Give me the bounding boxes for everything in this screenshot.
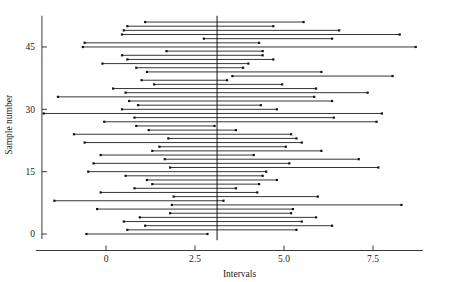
interval-endpoint-lower	[82, 46, 84, 48]
interval-endpoint-upper	[258, 42, 260, 44]
interval-endpoint-lower	[148, 129, 150, 131]
interval-endpoint-lower	[165, 50, 167, 52]
interval-endpoint-upper	[276, 108, 278, 110]
interval-endpoint-lower	[124, 175, 126, 177]
interval-endpoint-lower	[126, 229, 128, 231]
interval-endpoint-upper	[381, 112, 383, 114]
y-tick-label-45: 45	[25, 42, 35, 52]
x-tick-label-0: 0	[104, 254, 109, 264]
interval-plot-canvas: 015304502.55.07.5IntervalsSample number	[0, 0, 449, 282]
interval-endpoint-lower	[169, 212, 171, 214]
interval-endpoint-upper	[358, 158, 360, 160]
interval-endpoint-lower	[73, 133, 75, 135]
interval-endpoint-upper	[375, 121, 377, 123]
interval-endpoint-lower	[146, 71, 148, 73]
interval-endpoint-lower	[123, 220, 125, 222]
interval-endpoint-lower	[135, 125, 137, 127]
interval-endpoint-upper	[338, 29, 340, 31]
interval-endpoint-upper	[301, 220, 303, 222]
interval-endpoint-lower	[112, 87, 114, 89]
interval-endpoint-upper	[226, 79, 228, 81]
interval-endpoint-upper	[281, 83, 283, 85]
interval-endpoint-upper	[276, 179, 278, 181]
interval-endpoint-lower	[167, 137, 169, 139]
interval-endpoint-lower	[153, 83, 155, 85]
interval-endpoint-upper	[315, 216, 317, 218]
interval-endpoint-lower	[92, 162, 94, 164]
interval-endpoint-lower	[231, 75, 233, 77]
interval-endpoint-upper	[313, 96, 315, 98]
interval-endpoint-upper	[331, 100, 333, 102]
interval-plot-figure: 015304502.55.07.5IntervalsSample number	[0, 0, 449, 282]
interval-endpoint-lower	[158, 146, 160, 148]
interval-endpoint-lower	[146, 179, 148, 181]
interval-endpoint-upper	[260, 104, 262, 106]
interval-endpoint-upper	[258, 183, 260, 185]
interval-endpoint-lower	[100, 191, 102, 193]
interval-endpoint-lower	[141, 79, 143, 81]
y-tick-label-0: 0	[30, 229, 35, 239]
y-tick-label-30: 30	[25, 105, 35, 115]
interval-endpoint-upper	[272, 25, 274, 27]
interval-endpoint-lower	[101, 63, 103, 65]
interval-endpoint-upper	[367, 92, 369, 94]
interval-endpoint-upper	[377, 166, 379, 168]
interval-endpoint-lower	[121, 108, 123, 110]
y-tick-label-15: 15	[25, 167, 35, 177]
interval-endpoint-upper	[333, 117, 335, 119]
interval-endpoint-upper	[247, 63, 249, 65]
interval-endpoint-lower	[169, 166, 171, 168]
interval-endpoint-lower	[173, 195, 175, 197]
interval-endpoint-lower	[135, 67, 137, 69]
interval-endpoint-lower	[123, 29, 125, 31]
interval-endpoint-lower	[137, 104, 139, 106]
interval-endpoint-lower	[171, 204, 173, 206]
interval-endpoint-lower	[144, 225, 146, 227]
interval-endpoint-lower	[164, 158, 166, 160]
interval-endpoint-lower	[43, 112, 45, 114]
interval-endpoint-upper	[235, 187, 237, 189]
interval-endpoint-lower	[151, 150, 153, 152]
interval-endpoint-upper	[400, 204, 402, 206]
interval-endpoint-lower	[96, 208, 98, 210]
interval-endpoint-lower	[53, 200, 55, 202]
interval-endpoint-lower	[121, 33, 123, 35]
interval-endpoint-lower	[84, 42, 86, 44]
interval-endpoint-upper	[320, 71, 322, 73]
interval-endpoint-lower	[126, 25, 128, 27]
interval-endpoint-lower	[57, 96, 59, 98]
interval-endpoint-upper	[253, 154, 255, 156]
interval-endpoint-upper	[288, 162, 290, 164]
x-axis-title: Intervals	[223, 269, 257, 279]
interval-endpoint-lower	[85, 233, 87, 235]
interval-endpoint-upper	[290, 212, 292, 214]
interval-endpoint-lower	[103, 121, 105, 123]
interval-endpoint-lower	[84, 141, 86, 143]
interval-endpoint-lower	[128, 100, 130, 102]
interval-endpoint-lower	[203, 38, 205, 40]
interval-endpoint-lower	[151, 183, 153, 185]
interval-endpoint-upper	[331, 38, 333, 40]
interval-endpoint-upper	[292, 208, 294, 210]
interval-endpoint-upper	[301, 141, 303, 143]
interval-endpoint-upper	[317, 195, 319, 197]
interval-endpoint-lower	[133, 187, 135, 189]
interval-endpoint-upper	[206, 233, 208, 235]
interval-endpoint-upper	[315, 87, 317, 89]
interval-endpoint-upper	[391, 75, 393, 77]
interval-endpoint-upper	[262, 175, 264, 177]
interval-endpoint-upper	[331, 225, 333, 227]
interval-endpoint-lower	[126, 58, 128, 60]
interval-endpoint-upper	[262, 54, 264, 56]
interval-endpoint-lower	[133, 117, 135, 119]
interval-endpoint-lower	[124, 92, 126, 94]
interval-endpoint-upper	[262, 50, 264, 52]
interval-endpoint-upper	[242, 67, 244, 69]
interval-endpoint-upper	[265, 171, 267, 173]
interval-endpoint-lower	[87, 171, 89, 173]
y-axis-title: Sample number	[4, 94, 14, 155]
x-tick-label-5.0: 5.0	[278, 254, 290, 264]
interval-endpoint-upper	[222, 200, 224, 202]
interval-endpoint-upper	[320, 150, 322, 152]
interval-endpoint-lower	[121, 54, 123, 56]
